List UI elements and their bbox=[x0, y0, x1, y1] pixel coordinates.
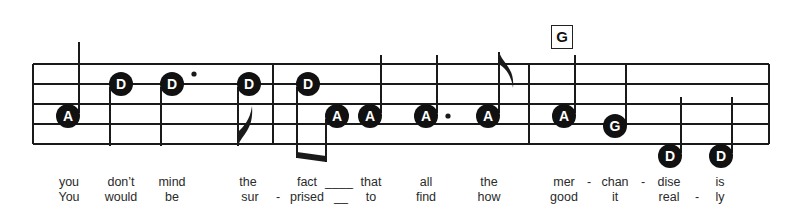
lyric-syllable: - bbox=[276, 190, 280, 204]
lyric-syllable: good bbox=[550, 190, 578, 204]
lyric-syllable: __ bbox=[334, 190, 348, 204]
lyric-syllable: be bbox=[165, 190, 179, 204]
lyric-syllable: ly bbox=[715, 190, 724, 204]
note-a: A bbox=[56, 104, 80, 128]
lyric-syllable: real bbox=[659, 190, 680, 204]
lyric-syllable: fact bbox=[297, 175, 317, 189]
lyric-syllable: to bbox=[366, 190, 376, 204]
lyric-syllable: sur bbox=[241, 190, 258, 204]
lyric-syllable: chan bbox=[601, 175, 628, 189]
lyric-syllable: how bbox=[478, 190, 501, 204]
eighth-flag bbox=[499, 52, 513, 88]
lyric-syllable: dise bbox=[658, 175, 681, 189]
note-g: G bbox=[603, 114, 627, 138]
lyric-syllable: the bbox=[480, 175, 497, 189]
note-d: D bbox=[160, 72, 184, 96]
note-a: A bbox=[414, 104, 438, 128]
lyric-syllable: you bbox=[59, 175, 79, 189]
lyric-syllable: would bbox=[105, 190, 138, 204]
augmentation-dot bbox=[191, 71, 196, 76]
sheet-music: G ADDDDAAAAAGDD youdon’tmindthefact____t… bbox=[0, 0, 800, 214]
lyric-syllable: - bbox=[695, 190, 699, 204]
lyric-syllable: all bbox=[420, 175, 433, 189]
eighth-flag bbox=[238, 106, 252, 146]
lyric-syllable: - bbox=[587, 175, 591, 189]
note-a: A bbox=[476, 104, 500, 128]
lyric-syllable: that bbox=[361, 175, 382, 189]
lyric-syllable: mer bbox=[553, 175, 575, 189]
note-d: D bbox=[109, 72, 133, 96]
lyric-syllable: is bbox=[715, 175, 724, 189]
note-d: D bbox=[237, 72, 261, 96]
lyric-syllable: mind bbox=[158, 175, 185, 189]
lyric-syllable: don’t bbox=[107, 175, 134, 189]
lyric-syllable: ____ bbox=[325, 175, 353, 189]
lyric-syllable: prised bbox=[290, 190, 324, 204]
augmentation-dot bbox=[445, 113, 450, 118]
beam bbox=[297, 152, 326, 162]
lyric-syllable: You bbox=[58, 190, 79, 204]
note-d: D bbox=[296, 72, 320, 96]
note-a: A bbox=[552, 104, 576, 128]
chord-symbol: G bbox=[551, 25, 573, 49]
lyric-syllable: find bbox=[416, 190, 436, 204]
note-d: D bbox=[709, 144, 733, 168]
lyric-syllable: - bbox=[641, 175, 645, 189]
lyric-syllable: it bbox=[612, 190, 618, 204]
lyric-syllable: the bbox=[239, 175, 256, 189]
note-a: A bbox=[358, 104, 382, 128]
note-d: D bbox=[658, 144, 682, 168]
note-a: A bbox=[325, 104, 349, 128]
